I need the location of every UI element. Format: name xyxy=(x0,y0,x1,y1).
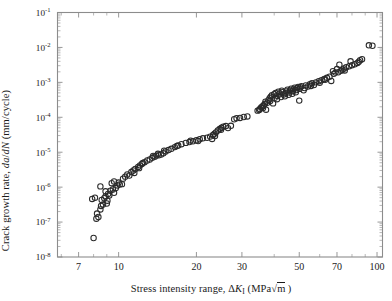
x-tick-label: 30 xyxy=(237,261,247,272)
x-tick-label: 50 xyxy=(294,261,304,272)
y-axis-title-text: Crack growth rate, da/dN (mm/cycle) xyxy=(0,90,11,251)
data-point xyxy=(245,114,250,119)
x-tick-label: 20 xyxy=(191,261,201,272)
x-axis-title-text: Stress intensity range, ΔKI (MPa√m ) xyxy=(131,283,292,294)
y-tick-label: 10-2 xyxy=(36,41,51,53)
y-axis-title: Crack growth rate, da/dN (mm/cycle) xyxy=(0,0,14,301)
y-tick-label: 10-7 xyxy=(36,216,51,228)
x-axis-title: Stress intensity range, ΔKI (MPa√m ) xyxy=(0,283,392,296)
y-tick-label: 10-4 xyxy=(36,111,51,123)
y-axis-ticks xyxy=(58,13,383,258)
y-tick-label: 10-1 xyxy=(36,6,51,18)
x-tick-label: 7 xyxy=(76,261,81,272)
data-point xyxy=(337,62,342,67)
fatigue-crack-growth-figure: 71020305070100 10-810-710-610-510-410-31… xyxy=(0,0,392,301)
y-tick-label: 10-8 xyxy=(36,251,51,263)
x-tick-label: 100 xyxy=(370,261,385,272)
plot-frame xyxy=(58,13,383,258)
y-tick-labels: 10-810-710-610-510-410-310-210-1 xyxy=(36,6,51,262)
x-axis-ticks xyxy=(61,13,377,258)
x-tick-label: 70 xyxy=(332,261,342,272)
data-point xyxy=(297,98,302,103)
x-tick-labels: 71020305070100 xyxy=(76,261,384,272)
data-point xyxy=(237,115,242,120)
y-tick-label: 10-3 xyxy=(36,76,51,88)
y-tick-label: 10-6 xyxy=(36,181,51,193)
data-point xyxy=(98,184,103,189)
x-tick-label: 10 xyxy=(114,261,124,272)
data-point xyxy=(91,235,96,240)
y-tick-label: 10-5 xyxy=(36,146,51,158)
plot-canvas: 71020305070100 10-810-710-610-510-410-31… xyxy=(0,0,392,301)
data-point-markers xyxy=(89,43,375,241)
data-point xyxy=(370,43,375,48)
